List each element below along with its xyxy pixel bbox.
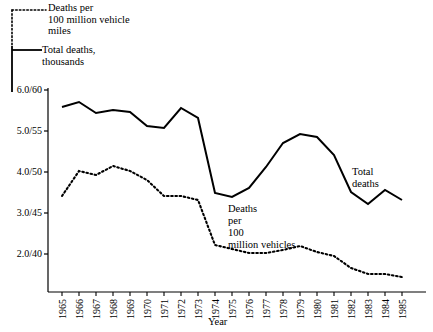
xtick-label-20: 1985 bbox=[397, 299, 408, 319]
xtick-label-5: 1970 bbox=[142, 299, 153, 319]
annotation-deaths-per-100m-line1: Deaths bbox=[228, 203, 295, 215]
annotation-deaths-per-100m-line2: per bbox=[228, 215, 295, 227]
annotation-deaths-per-100m-line4: million vehicles bbox=[228, 239, 295, 251]
annotation-deaths-per-100m-line3: 100 bbox=[228, 227, 295, 239]
ytick-label-1: 5.0/55 bbox=[0, 125, 42, 136]
series-total-deaths bbox=[62, 102, 402, 204]
xtick-label-11: 1976 bbox=[244, 299, 255, 319]
xtick-label-12: 1977 bbox=[261, 299, 272, 319]
annotation-total-deaths: Total deaths bbox=[352, 166, 379, 190]
xtick-label-8: 1973 bbox=[193, 299, 204, 319]
annotation-total-deaths-line2: deaths bbox=[352, 178, 379, 190]
xtick-label-6: 1971 bbox=[159, 299, 170, 319]
annotation-total-deaths-line1: Total bbox=[352, 166, 379, 178]
xtick-label-3: 1968 bbox=[108, 299, 119, 319]
xtick-label-2: 1967 bbox=[91, 299, 102, 319]
xtick-label-10: 1975 bbox=[227, 299, 238, 319]
annotation-deaths-per-100m: Deaths per 100 million vehicles bbox=[228, 203, 295, 251]
xtick-label-1: 1966 bbox=[74, 299, 85, 319]
x-axis-title: Year bbox=[208, 316, 227, 327]
chart-root: Deaths per 100 million vehicle miles Tot… bbox=[0, 0, 433, 332]
xtick-label-16: 1981 bbox=[329, 299, 340, 319]
xtick-label-15: 1980 bbox=[312, 299, 323, 319]
ytick-label-4: 2.0/40 bbox=[0, 248, 42, 259]
xtick-label-4: 1969 bbox=[125, 299, 136, 319]
xtick-label-13: 1978 bbox=[278, 299, 289, 319]
ytick-label-2: 4.0/50 bbox=[0, 166, 42, 177]
xtick-label-18: 1983 bbox=[363, 299, 374, 319]
xtick-label-19: 1984 bbox=[380, 299, 391, 319]
xtick-label-17: 1982 bbox=[346, 299, 357, 319]
xtick-label-14: 1979 bbox=[295, 299, 306, 319]
ytick-label-0: 6.0/60 bbox=[0, 84, 42, 95]
xtick-label-7: 1972 bbox=[176, 299, 187, 319]
xtick-label-0: 1965 bbox=[57, 299, 68, 319]
ytick-label-3: 3.0/45 bbox=[0, 207, 42, 218]
